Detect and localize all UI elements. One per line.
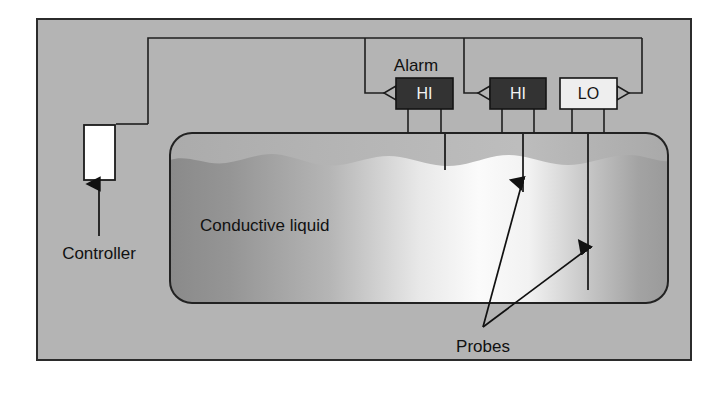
lo-label: LO (578, 85, 599, 102)
liquid-label: Conductive liquid (200, 216, 329, 235)
probes-label: Probes (456, 337, 510, 356)
hi2-label: HI (510, 85, 526, 102)
hi1-label: HI (417, 85, 433, 102)
level-alarm-diagram: Controller Alarm HI HI LO Probes (0, 0, 717, 393)
controller-label: Controller (62, 244, 136, 263)
controller-box[interactable] (84, 125, 115, 180)
figure-container: Controller Alarm HI HI LO Probes (0, 0, 717, 393)
alarm-label: Alarm (394, 56, 438, 75)
